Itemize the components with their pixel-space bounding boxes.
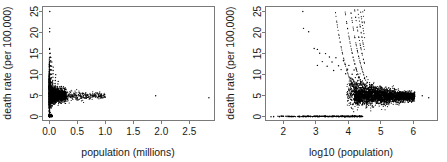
y-tick-label: 10 [252,69,263,81]
data-point [347,91,348,92]
data-point [356,99,357,100]
data-point [353,69,354,70]
data-point [55,94,56,95]
data-point [53,88,54,89]
data-point [359,89,360,90]
data-point [49,78,50,79]
data-point [363,44,364,45]
data-point [49,85,50,86]
data-point [347,96,348,97]
data-point [291,116,292,117]
data-point [57,99,58,100]
data-point [324,115,325,116]
data-point [348,116,349,117]
data-point [89,99,90,100]
data-point [317,49,318,50]
data-point [411,102,412,103]
data-point [380,102,381,103]
data-point [75,97,76,98]
data-point [89,93,90,94]
data-point [361,67,362,68]
data-point [353,111,354,112]
data-point [362,104,363,105]
data-point [354,9,355,10]
data-point [369,82,370,83]
data-point [367,85,368,86]
data-point [63,99,64,100]
data-point [387,106,388,107]
data-point [354,102,355,103]
data-point [364,49,365,50]
data-point [52,98,53,99]
data-point [340,69,341,70]
data-point [402,101,403,102]
data-point [337,27,338,28]
data-point [373,99,374,100]
data-point [53,95,54,96]
data-point [273,116,274,117]
data-point [384,93,385,94]
data-point [367,104,368,105]
data-point [87,94,88,95]
data-point [92,91,93,92]
data-point [51,77,52,78]
data-point [349,78,350,79]
data-point [372,98,373,99]
data-point [351,82,352,83]
data-point [79,95,80,96]
data-point [409,90,410,91]
data-point [357,30,358,31]
data-point [74,90,75,91]
data-point [398,90,399,91]
data-point [386,95,387,96]
data-point [349,105,350,106]
data-point [396,104,397,105]
data-point [102,97,103,98]
data-point [370,100,371,101]
data-point [364,62,365,63]
data-point [49,106,50,107]
data-point [277,115,278,116]
data-point [396,98,397,99]
data-point [51,69,52,70]
data-point [344,63,345,64]
data-point [345,14,346,15]
data-point [49,104,50,105]
data-point [393,93,394,94]
data-point [378,87,379,88]
data-point [49,87,50,88]
data-point [64,92,65,93]
data-point [357,103,358,104]
data-point [338,65,339,66]
data-point [317,116,318,117]
data-point [335,57,336,58]
data-point [363,87,364,88]
data-point [338,116,339,117]
data-point [58,100,59,101]
data-point [288,116,289,117]
data-point [361,87,362,88]
data-point [369,84,370,85]
data-point [381,104,382,105]
data-point [95,92,96,93]
data-point [367,79,368,80]
data-point [400,99,401,100]
data-point [54,101,55,102]
data-point [362,11,363,12]
data-point [359,21,360,22]
data-point [314,115,315,116]
data-point [64,97,65,98]
data-point [50,92,51,93]
data-point [355,116,356,117]
data-point [360,102,361,103]
data-point [54,87,55,88]
data-point [95,96,96,97]
data-point [346,23,347,24]
data-point [270,116,271,117]
data-point [342,53,343,54]
data-point [55,101,56,102]
data-point [369,97,370,98]
data-point [413,95,414,96]
data-point [50,106,51,107]
data-point [289,116,290,117]
